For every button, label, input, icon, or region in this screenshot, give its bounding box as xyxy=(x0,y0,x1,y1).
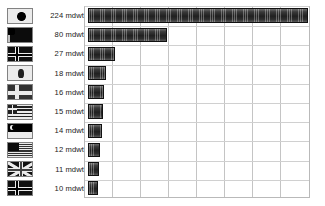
chart-row: 10 mdwt xyxy=(0,179,325,198)
bar-lane xyxy=(88,44,325,63)
bar-lane xyxy=(88,102,325,121)
norway-flag-2 xyxy=(7,180,33,196)
flag-cell xyxy=(0,8,40,24)
category-label: 18 mdwt xyxy=(40,69,88,78)
chart-rows: 224 mdwt80 mdwt27 mdwt18 mdwt16 mdwt15 m… xyxy=(0,6,325,202)
united-states-flag xyxy=(7,142,33,158)
chart-row: 15 mdwt xyxy=(0,102,325,121)
category-label: 10 mdwt xyxy=(40,184,88,193)
bar-lane xyxy=(88,25,325,44)
bar[interactable] xyxy=(88,104,103,118)
flag-cell xyxy=(0,65,40,81)
united-kingdom-flag xyxy=(7,161,33,177)
bar-lane xyxy=(88,160,325,179)
greece-flag xyxy=(7,104,33,120)
bar-lane xyxy=(88,121,325,140)
category-label: 16 mdwt xyxy=(40,88,88,97)
flag-cell xyxy=(0,27,40,43)
bar[interactable] xyxy=(88,8,308,22)
bar[interactable] xyxy=(88,85,104,99)
china-flag xyxy=(7,27,33,43)
flag-cell xyxy=(0,104,40,120)
flag-cell xyxy=(0,161,40,177)
flag-cell xyxy=(0,180,40,196)
hong-kong-flag xyxy=(7,65,33,81)
chart-row: 18 mdwt xyxy=(0,64,325,83)
chart-row: 16 mdwt xyxy=(0,83,325,102)
category-label: 80 mdwt xyxy=(40,30,88,39)
category-label: 14 mdwt xyxy=(40,126,88,135)
bar-lane xyxy=(88,140,325,159)
japan-flag xyxy=(7,8,33,24)
category-label: 27 mdwt xyxy=(40,49,88,58)
bar[interactable] xyxy=(88,162,99,176)
bar-lane xyxy=(88,83,325,102)
denmark-flag xyxy=(7,84,33,100)
flag-cell xyxy=(0,142,40,158)
chart-row: 11 mdwt xyxy=(0,160,325,179)
category-label: 15 mdwt xyxy=(40,107,88,116)
chart-row: 14 mdwt xyxy=(0,121,325,140)
flag-cell xyxy=(0,123,40,139)
flag-cell xyxy=(0,84,40,100)
chart-row: 224 mdwt xyxy=(0,6,325,25)
bar[interactable] xyxy=(88,124,102,138)
bar[interactable] xyxy=(88,47,115,61)
horizontal-bar-chart: 224 mdwt80 mdwt27 mdwt18 mdwt16 mdwt15 m… xyxy=(0,0,325,206)
bar-lane xyxy=(88,179,325,198)
flag-cell xyxy=(0,46,40,62)
category-label: 224 mdwt xyxy=(40,11,88,20)
bar[interactable] xyxy=(88,28,167,42)
category-label: 12 mdwt xyxy=(40,145,88,154)
bar-lane xyxy=(88,6,325,25)
bar[interactable] xyxy=(88,66,106,80)
chart-row: 27 mdwt xyxy=(0,44,325,63)
bar-lane xyxy=(88,64,325,83)
singapore-flag xyxy=(7,123,33,139)
chart-row: 12 mdwt xyxy=(0,140,325,159)
norway-flag xyxy=(7,46,33,62)
bar[interactable] xyxy=(88,181,98,195)
chart-row: 80 mdwt xyxy=(0,25,325,44)
category-label: 11 mdwt xyxy=(40,165,88,174)
bar[interactable] xyxy=(88,143,100,157)
